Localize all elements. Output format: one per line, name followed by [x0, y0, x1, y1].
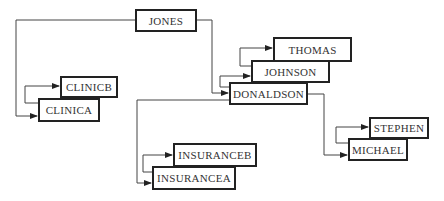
node-jones: JONES	[135, 9, 197, 32]
node-clinicb: CLINICB	[60, 76, 118, 98]
edge-donaldson-michael	[308, 94, 347, 155]
node-thomas: THOMAS	[273, 37, 352, 62]
node-clinica: CLINICA	[38, 98, 100, 122]
node-insuranceb: INSURANCEB	[173, 143, 257, 167]
edge-jones-donaldson	[197, 20, 228, 93]
node-johnson: JOHNSON	[251, 60, 330, 83]
node-michael: MICHAEL	[348, 138, 408, 161]
tree-diagram: JONES CLINICB CLINICA THOMAS JOHNSON DON…	[0, 0, 444, 201]
node-stephen: STEPHEN	[369, 117, 429, 139]
node-donaldson: DONALDSON	[229, 82, 308, 105]
node-insurancea: INSURANCEA	[152, 166, 236, 190]
